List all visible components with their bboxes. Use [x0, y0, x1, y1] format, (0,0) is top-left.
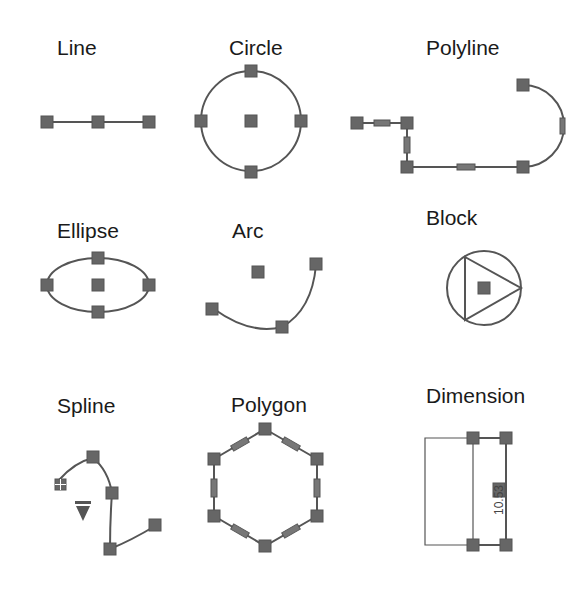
- polygon-shape[interactable]: [208, 423, 323, 552]
- tangent-arrow-icon[interactable]: [75, 501, 91, 521]
- midpoint-grip[interactable]: [211, 479, 217, 497]
- arc-path[interactable]: [214, 265, 316, 329]
- grip-handle[interactable]: [143, 279, 155, 291]
- grip-handle[interactable]: [245, 65, 257, 77]
- polyline-shape[interactable]: [351, 79, 565, 173]
- grip-handle[interactable]: [259, 423, 271, 435]
- circle-shape[interactable]: [195, 65, 307, 178]
- midpoint-grip[interactable]: [282, 437, 301, 451]
- grip-handle[interactable]: [500, 539, 512, 551]
- midpoint-grip[interactable]: [282, 524, 301, 538]
- insertion-grip-handle[interactable]: [478, 282, 490, 294]
- grip-handle[interactable]: [208, 510, 220, 522]
- grip-handle[interactable]: [208, 453, 220, 465]
- grip-handle[interactable]: [467, 432, 479, 444]
- midpoint-grip[interactable]: [560, 118, 565, 134]
- center-grip-handle[interactable]: [92, 279, 104, 291]
- dimension-value: 10.53: [492, 485, 506, 515]
- grip-handle[interactable]: [517, 79, 529, 91]
- grip-handle[interactable]: [106, 487, 118, 499]
- grip-handle[interactable]: [143, 116, 155, 128]
- dimension-shape[interactable]: 10.53: [425, 432, 512, 551]
- grip-handle[interactable]: [92, 306, 104, 318]
- midpoint-grip[interactable]: [457, 164, 475, 170]
- grip-handle[interactable]: [41, 116, 53, 128]
- grip-handle[interactable]: [245, 166, 257, 178]
- midpoint-grip[interactable]: [231, 437, 250, 451]
- grip-handle[interactable]: [517, 161, 529, 173]
- grip-handle[interactable]: [276, 321, 288, 333]
- midpoint-grip[interactable]: [404, 137, 410, 153]
- grip-handle[interactable]: [206, 303, 218, 315]
- grip-handle[interactable]: [311, 510, 323, 522]
- grip-handle[interactable]: [195, 115, 207, 127]
- measured-outline: [425, 438, 473, 545]
- center-grip-handle[interactable]: [245, 115, 257, 127]
- grip-handle[interactable]: [401, 117, 413, 129]
- grip-handle[interactable]: [311, 453, 323, 465]
- grip-handle[interactable]: [92, 116, 104, 128]
- ellipse-shape[interactable]: [41, 252, 155, 318]
- arc-shape[interactable]: [206, 258, 322, 333]
- grip-handle[interactable]: [41, 279, 53, 291]
- start-grip-handle[interactable]: [55, 479, 66, 490]
- polygon-outline[interactable]: [214, 429, 317, 546]
- block-shape[interactable]: [447, 251, 521, 325]
- grip-handle[interactable]: [104, 543, 116, 555]
- grip-handle[interactable]: [92, 252, 104, 264]
- grip-handle[interactable]: [467, 539, 479, 551]
- grip-handle[interactable]: [500, 432, 512, 444]
- line-shape[interactable]: [41, 116, 155, 128]
- center-grip-handle[interactable]: [252, 266, 264, 278]
- grip-handle[interactable]: [310, 258, 322, 270]
- grip-handle[interactable]: [401, 161, 413, 173]
- midpoint-grip[interactable]: [314, 479, 320, 497]
- grip-handle[interactable]: [259, 540, 271, 552]
- grip-handle[interactable]: [351, 117, 363, 129]
- spline-shape[interactable]: [55, 451, 161, 555]
- grip-handle[interactable]: [87, 451, 99, 463]
- midpoint-grip[interactable]: [231, 524, 250, 538]
- midpoint-grip[interactable]: [374, 120, 390, 126]
- spline-path[interactable]: [59, 458, 155, 549]
- grip-handle[interactable]: [149, 519, 161, 531]
- grip-handle[interactable]: [295, 115, 307, 127]
